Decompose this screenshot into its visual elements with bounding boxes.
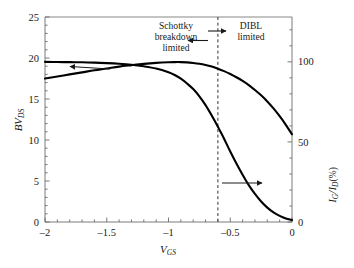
chart-canvas: 0510152025 050100 –2–1.5–1–0.50 Schottky… bbox=[0, 0, 354, 268]
x-axis-title-sub: GS bbox=[167, 248, 176, 257]
schottky-label-line-3: limited bbox=[162, 42, 189, 53]
right-tick-label: 50 bbox=[298, 137, 309, 148]
bottom-tick-label: 0 bbox=[289, 227, 294, 238]
left-tick-label: 5 bbox=[34, 176, 39, 187]
right-axis-title-unit: (%) bbox=[328, 167, 339, 181]
bottom-tick-label: –0.5 bbox=[220, 227, 239, 238]
right-tick-label: 0 bbox=[298, 217, 303, 228]
figure-container: 0510152025 050100 –2–1.5–1–0.50 Schottky… bbox=[0, 0, 354, 268]
left-tick-label: 20 bbox=[29, 53, 40, 64]
dibl-label-line-1: DIBL bbox=[240, 20, 263, 31]
dibl-label-line-2: limited bbox=[237, 31, 264, 42]
bottom-tick-label: –2 bbox=[39, 227, 51, 238]
dibl-region-label: DIBL limited bbox=[237, 20, 264, 42]
right-tick-label: 100 bbox=[298, 56, 314, 67]
left-tick-label: 0 bbox=[34, 217, 39, 228]
bottom-tick-label: –1.5 bbox=[97, 227, 116, 238]
left-tick-label: 15 bbox=[29, 94, 40, 105]
left-axis-title-sub: DS bbox=[17, 108, 26, 118]
schottky-label-line-1: Schottky bbox=[159, 20, 193, 31]
left-tick-label: 10 bbox=[29, 135, 40, 146]
bottom-tick-label: –1 bbox=[162, 227, 174, 238]
left-tick-label: 25 bbox=[29, 12, 40, 23]
schottky-label-line-2: breakdown bbox=[155, 31, 198, 42]
